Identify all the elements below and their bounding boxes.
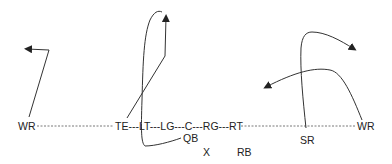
route-sr (301, 32, 354, 128)
route-wr-left (27, 49, 49, 117)
offensive-line: TE---LT---LG---C---RG---RT (115, 121, 243, 132)
route-wr-right (266, 69, 362, 120)
player-wr-left: WR (18, 121, 36, 132)
player-wr-right: WR (357, 121, 375, 132)
player-qb: QB (183, 133, 198, 144)
player-sr: SR (300, 135, 315, 146)
player-rb: RB (237, 147, 252, 158)
play-diagram: WR TE---LT---LG---C---RG---RT QB X RB SR… (0, 0, 392, 164)
player-x: X (203, 147, 210, 158)
